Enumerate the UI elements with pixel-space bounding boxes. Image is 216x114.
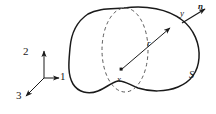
axis-label-2: 2 [23,46,29,57]
point-label-y: y [180,9,184,18]
dashed-ellipse-icon [102,8,148,92]
blob-body-icon [69,7,199,93]
axis-label-1: 1 [60,71,66,82]
radius-label-r: r [147,39,151,48]
coordinate-axes-icon [26,51,59,96]
normal-label-n: n [198,2,203,11]
point-label-x: x [117,75,121,84]
point-marker-icon [120,68,123,71]
axis-label-3: 3 [16,90,22,101]
radius-vector-arrow-icon [122,28,170,69]
normal-vector-arrow-icon [182,9,205,23]
surface-label-s: S [189,70,194,80]
figure-canvas: 2 1 3 x r y n S [0,0,216,114]
